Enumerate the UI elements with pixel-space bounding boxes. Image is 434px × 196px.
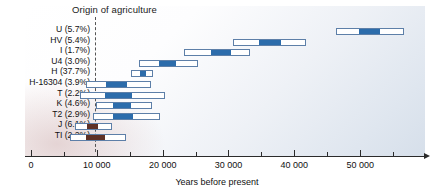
- x-tick-minor: [64, 152, 65, 156]
- category-label: I (1.7%): [60, 46, 90, 55]
- category-label: H-16304 (3.9%): [29, 78, 90, 87]
- range-bar: [75, 123, 112, 130]
- x-tick-label: 20 000: [149, 160, 177, 170]
- range-bar-highlight: [359, 29, 380, 34]
- x-axis-line: [25, 156, 425, 157]
- x-tick-minor: [261, 152, 262, 156]
- range-bar: [86, 81, 151, 88]
- x-tick-major: [360, 150, 361, 156]
- range-bar-highlight: [86, 135, 105, 140]
- category-label: U (5.7%): [56, 25, 90, 34]
- range-bar: [93, 113, 160, 120]
- x-axis-arrow-icon: [424, 153, 430, 159]
- x-tick-major: [97, 150, 98, 156]
- x-tick-label: 30 000: [215, 160, 243, 170]
- range-bar: [139, 60, 198, 67]
- range-bar-highlight: [87, 124, 98, 129]
- x-tick-minor: [327, 152, 328, 156]
- range-bar: [80, 92, 166, 99]
- range-bar-highlight: [140, 71, 146, 76]
- x-tick-label: 0: [28, 160, 33, 170]
- x-tick-minor: [130, 152, 131, 156]
- x-tick-major: [163, 150, 164, 156]
- x-tick-major: [228, 150, 229, 156]
- category-label: HV (5.4%): [50, 36, 90, 45]
- x-tick-label: 40 000: [281, 160, 309, 170]
- category-label: T2 (2.9%): [52, 110, 90, 119]
- x-tick-major: [294, 150, 295, 156]
- range-bar: [96, 102, 152, 109]
- origin-of-agriculture-label: Origin of agriculture: [72, 4, 157, 15]
- range-bar: [70, 134, 126, 141]
- range-bar-highlight: [113, 103, 131, 108]
- category-label: U4 (3.0%): [51, 57, 90, 66]
- range-bar-highlight: [106, 82, 127, 87]
- range-bar: [131, 70, 153, 77]
- range-bar-highlight: [113, 114, 133, 119]
- range-bar: [336, 28, 404, 35]
- x-tick-major: [31, 150, 32, 156]
- category-label: H (37.7%): [51, 67, 90, 76]
- range-bar: [184, 49, 249, 56]
- range-bar-highlight: [105, 93, 133, 98]
- range-bar-highlight: [259, 40, 281, 45]
- range-bar: [233, 39, 305, 46]
- x-axis-title: Years before present: [0, 177, 434, 187]
- range-bar-highlight: [159, 61, 176, 66]
- x-tick-minor: [196, 152, 197, 156]
- x-tick-label: 10 000: [83, 160, 111, 170]
- x-tick-label: 50 000: [346, 160, 374, 170]
- chart-figure: Origin of agriculture U (5.7%)HV (5.4%)I…: [0, 0, 434, 196]
- category-label: K (4.6%): [57, 99, 90, 108]
- x-tick-minor: [393, 152, 394, 156]
- range-bar-highlight: [211, 50, 231, 55]
